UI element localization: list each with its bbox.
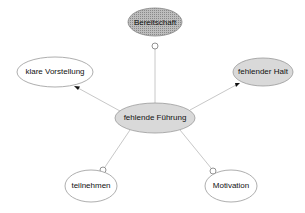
- node-label-teilnehmen: teilnehmen: [71, 182, 110, 190]
- node-label-fehlender-halt: fehlender Halt: [238, 68, 288, 76]
- node-label-motivation: Motivation: [213, 182, 249, 190]
- node-label-klare-vorstellung: klare Vorstellung: [25, 68, 84, 76]
- node-label-bereitschaft: Bereitschaft: [134, 19, 176, 27]
- edge-end-circle-icon: [152, 43, 158, 49]
- mind-map-canvas: Bereitschaft klare Vorstellung fehlender…: [0, 0, 305, 213]
- edge-fuehrung-motivation: [180, 130, 211, 168]
- edge-fuehrung-teilnehmen: [105, 130, 130, 167]
- edge-fuehrung-vorstellung: [78, 88, 120, 111]
- edge-fuehrung-halt: [190, 85, 236, 110]
- diagram-svg: [0, 0, 305, 213]
- edge-arrowhead-icon: [235, 83, 240, 87]
- node-label-fehlende-fuehrung: fehlende Führung: [124, 114, 187, 122]
- edge-arrowhead-icon: [74, 86, 80, 90]
